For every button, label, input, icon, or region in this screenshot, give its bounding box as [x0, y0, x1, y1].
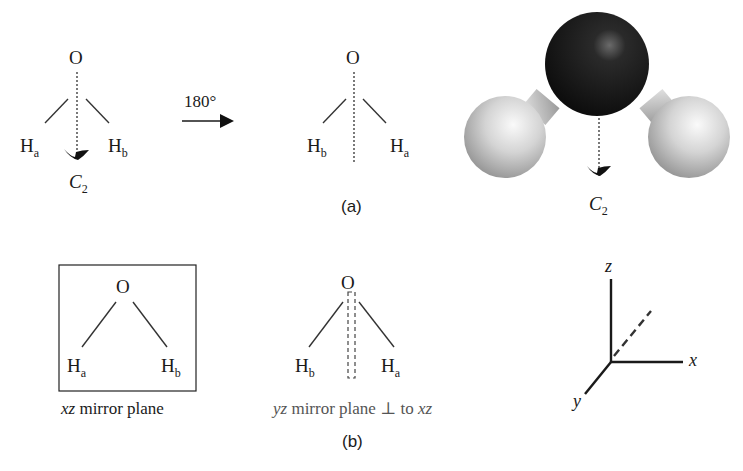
oxygen-label: O — [341, 272, 355, 293]
original-water-molecule: O Ha Hb C2 — [20, 47, 128, 196]
bond-right — [359, 302, 394, 347]
yz-plane-edge-icon — [348, 292, 355, 378]
water-symmetry-diagram: O Ha Hb C2 180° O Hb Ha (a) C2 O — [0, 0, 743, 471]
oxygen-sphere — [545, 12, 649, 116]
bond-right — [133, 302, 167, 347]
hydrogen-a-label: Ha — [390, 135, 410, 160]
rotation-angle-label: 180° — [184, 92, 216, 111]
hydrogen-a-label: Ha — [20, 135, 40, 160]
c2-label: C2 — [69, 171, 88, 196]
bond-left — [323, 99, 346, 123]
hydrogen-sphere-right — [648, 96, 730, 178]
hydrogen-b-label: Hb — [161, 355, 181, 380]
xz-mirror-plane-panel: O Ha Hb xz mirror plane — [59, 265, 196, 418]
coordinate-axes: z x y — [571, 256, 697, 411]
panel-b-label: (b) — [342, 432, 363, 451]
hydrogen-a-label: Ha — [381, 355, 401, 380]
y-axis — [585, 362, 611, 394]
space-filling-model: C2 — [464, 12, 730, 218]
hydrogen-b-label: Hb — [307, 135, 327, 160]
hydrogen-b-label: Hb — [295, 355, 315, 380]
bond-right — [86, 99, 109, 123]
rotation-arrow-icon — [64, 149, 89, 160]
bond-left — [45, 99, 68, 123]
hydrogen-b-label: Hb — [108, 135, 128, 160]
x-axis-label: x — [688, 350, 697, 370]
panel-a-label: (a) — [341, 197, 362, 216]
rotation-arrow: 180° — [182, 92, 234, 128]
z-axis-label: z — [604, 256, 612, 276]
bond-right — [363, 99, 386, 123]
arrow-head-icon — [220, 114, 234, 128]
y-axis-label: y — [571, 391, 581, 411]
negative-y-axis-dashed — [614, 311, 651, 356]
oxygen-label: O — [69, 47, 83, 68]
yz-mirror-plane-panel: O Hb Ha yz mirror plane ⊥ to xz — [271, 272, 432, 418]
bond-left — [309, 302, 343, 347]
bond-left — [82, 302, 116, 347]
oxygen-label: O — [346, 47, 360, 68]
yz-plane-caption: yz mirror plane ⊥ to xz — [271, 399, 432, 418]
oxygen-label: O — [116, 276, 130, 297]
hydrogen-a-label: Ha — [67, 355, 87, 380]
xz-plane-caption: xz mirror plane — [60, 399, 164, 418]
rotated-water-molecule: O Hb Ha — [307, 47, 410, 164]
hydrogen-sphere-left — [464, 96, 546, 178]
c2-label: C2 — [589, 193, 608, 218]
